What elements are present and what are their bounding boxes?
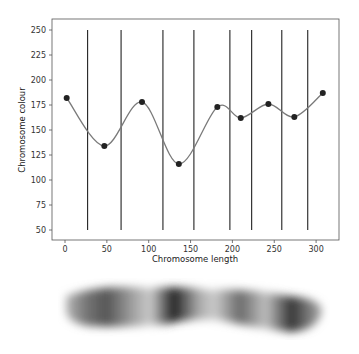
y-tick-label: 75	[36, 201, 46, 210]
chromosome-shape	[66, 287, 322, 332]
data-point	[101, 143, 107, 149]
x-tick-label: 50	[102, 245, 112, 254]
data-point	[291, 114, 297, 120]
y-tick-label: 50	[36, 226, 46, 235]
segment-lines	[88, 30, 308, 230]
data-point	[139, 99, 145, 105]
y-axis-ticks: 5075100125150175200225250	[31, 26, 52, 235]
x-axis-ticks: 050100150200250300	[62, 240, 323, 254]
data-point	[214, 104, 220, 110]
y-tick-label: 250	[31, 26, 46, 35]
chromosome-colour-chart: 050100150200250300 507510012515017520022…	[0, 0, 359, 275]
y-tick-label: 200	[31, 76, 46, 85]
y-tick-label: 175	[31, 101, 46, 110]
x-tick-label: 150	[183, 245, 198, 254]
data-point	[238, 115, 244, 121]
x-tick-label: 0	[62, 245, 67, 254]
x-tick-label: 100	[141, 245, 156, 254]
data-markers	[64, 90, 326, 167]
y-tick-label: 125	[31, 151, 46, 160]
y-axis-label: Chromosome colour	[17, 87, 27, 173]
y-tick-label: 225	[31, 51, 46, 60]
plot-frame	[52, 19, 339, 240]
data-point	[265, 101, 271, 107]
chromosome-band-image	[58, 278, 330, 340]
y-tick-label: 150	[31, 126, 46, 135]
data-point	[176, 161, 182, 167]
x-tick-label: 250	[267, 245, 282, 254]
x-axis-label: Chromosome length	[152, 254, 238, 264]
data-point	[64, 95, 70, 101]
data-point	[320, 90, 326, 96]
x-tick-label: 200	[225, 245, 240, 254]
colour-curve	[67, 93, 323, 164]
x-tick-label: 300	[308, 245, 323, 254]
y-tick-label: 100	[31, 176, 46, 185]
